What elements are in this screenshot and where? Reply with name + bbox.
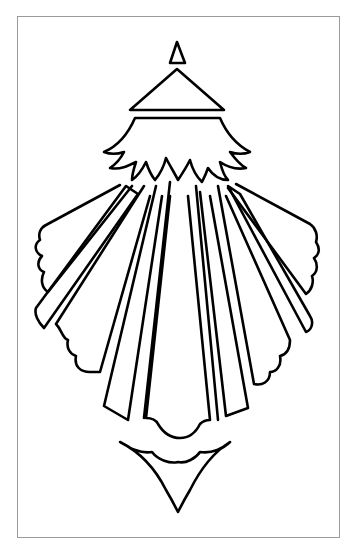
right-outer-wing-icon [228,184,319,294]
pendant-drop-icon [120,442,230,512]
roof-triangle-icon [130,69,224,110]
leaf-crown-icon [104,118,250,182]
left-thin-ray-icon [35,186,138,328]
left-inner-ray-icon [104,186,162,420]
finial-triangle-icon [170,42,185,63]
left-mid-wing-icon [56,186,150,372]
ornament-drawing [0,0,362,559]
right-mid-wing-icon [218,186,290,385]
left-outer-wing-icon [36,185,132,292]
